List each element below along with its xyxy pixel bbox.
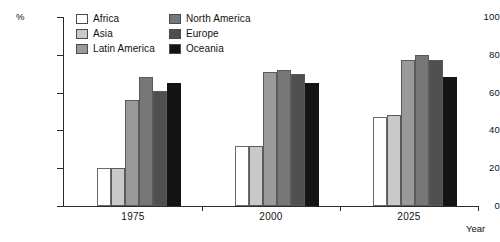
bar	[387, 115, 401, 206]
y-tick-label: 80	[454, 50, 500, 60]
bar	[415, 55, 429, 206]
y-tick-mark	[57, 168, 63, 169]
legend-swatch-icon	[76, 14, 88, 24]
x-tick-label: 2000	[231, 211, 311, 223]
bar-chart: % 100806040200 197520002025 Year AfricaA…	[0, 0, 500, 242]
y-tick-mark	[57, 206, 63, 207]
bar	[277, 70, 291, 206]
chart-legend: AfricaAsiaLatin AmericaNorth AmericaEuro…	[76, 11, 251, 56]
y-tick-label: 100	[454, 12, 500, 22]
bar	[401, 60, 415, 206]
bar	[291, 74, 305, 206]
y-tick-label: 0	[454, 201, 500, 211]
x-axis-line	[63, 206, 478, 207]
bar	[97, 168, 111, 206]
bar	[111, 168, 125, 206]
bar	[443, 77, 457, 206]
y-axis-line	[63, 17, 64, 207]
legend-item: Africa	[76, 11, 155, 26]
legend-label: Asia	[93, 28, 113, 39]
bar	[249, 146, 263, 206]
bar	[235, 146, 249, 206]
bar	[263, 72, 277, 206]
y-tick-mark	[57, 55, 63, 56]
legend-item: North America	[169, 11, 251, 26]
legend-item: Europe	[169, 26, 251, 41]
bar	[167, 83, 181, 206]
legend-label: Europe	[186, 28, 219, 39]
legend-item: Oceania	[169, 41, 251, 56]
bar	[429, 60, 443, 206]
bar	[125, 100, 139, 206]
y-tick-label: 60	[454, 88, 500, 98]
legend-label: Africa	[93, 13, 119, 24]
y-tick-mark	[57, 93, 63, 94]
x-tick-mark	[340, 206, 341, 211]
y-tick-label: 20	[454, 163, 500, 173]
legend-label: Oceania	[186, 43, 224, 54]
legend-swatch-icon	[76, 29, 88, 39]
bar	[373, 117, 387, 206]
legend-swatch-icon	[169, 14, 181, 24]
bar	[139, 77, 153, 206]
legend-swatch-icon	[76, 44, 88, 54]
y-tick-mark	[57, 130, 63, 131]
x-tick-label: 1975	[93, 211, 173, 223]
y-axis-unit-label: %	[16, 12, 24, 22]
y-tick-label: 40	[454, 125, 500, 135]
legend-item: Latin America	[76, 41, 155, 56]
legend-label: North America	[186, 13, 251, 24]
legend-label: Latin America	[93, 43, 155, 54]
legend-swatch-icon	[169, 29, 181, 39]
bar	[153, 91, 167, 206]
y-tick-mark	[57, 17, 63, 18]
legend-item: Asia	[76, 26, 155, 41]
x-axis-title: Year	[466, 224, 485, 234]
bar	[305, 83, 319, 206]
legend-swatch-icon	[169, 44, 181, 54]
x-tick-mark	[478, 206, 479, 211]
x-tick-mark	[202, 206, 203, 211]
x-tick-label: 2025	[369, 211, 449, 223]
